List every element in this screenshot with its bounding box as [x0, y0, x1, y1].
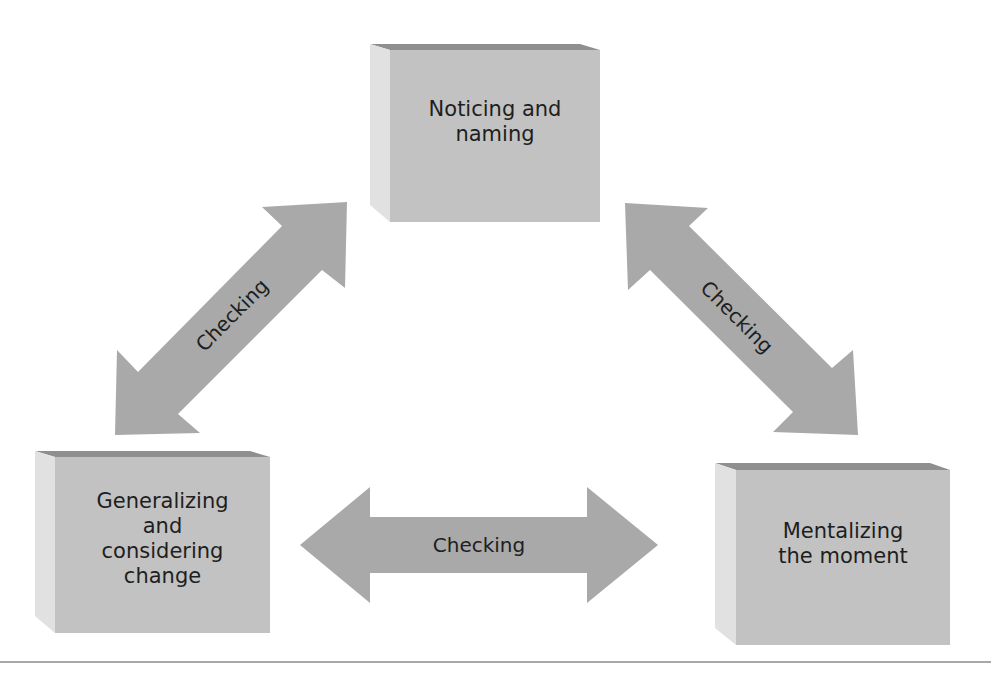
box-side-face	[370, 44, 390, 222]
box-side-face	[35, 451, 55, 633]
node-label-mentalizing: Mentalizing the moment	[736, 456, 950, 631]
diagram-canvas: Noticing and naming Generalizing and con…	[0, 0, 991, 679]
node-label-generalizing: Generalizing and considering change	[55, 451, 270, 627]
edge-label-horizontal: Checking	[419, 533, 539, 557]
box-side-face	[715, 463, 736, 645]
bottom-divider-rule	[0, 661, 991, 663]
node-label-noticing: Noticing and naming	[390, 36, 600, 208]
